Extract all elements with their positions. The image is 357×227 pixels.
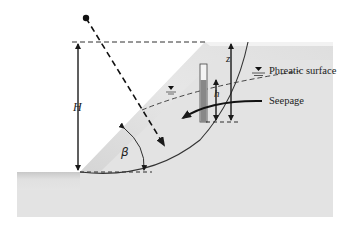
seepage-label: Seepage: [269, 96, 304, 107]
depth-z-label: z: [226, 53, 230, 64]
piezometer-tube: [200, 64, 207, 122]
slope-angle-label: β: [121, 146, 129, 158]
slope-diagram: [0, 0, 357, 227]
phreatic-surface-label: Phreatic surface: [269, 66, 336, 77]
height-label: H: [73, 101, 82, 113]
head-h-label: h: [214, 88, 220, 99]
